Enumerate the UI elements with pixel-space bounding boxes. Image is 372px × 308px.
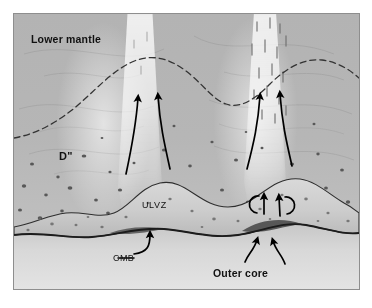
plume-arrow-right-inner <box>247 96 260 169</box>
circulation-loop-left <box>249 196 259 213</box>
label-outer-core: Outer core <box>213 267 268 279</box>
label-ulvz: ULVZ <box>142 200 167 210</box>
plume-arrow-left-inner <box>126 98 138 174</box>
plume-arrow-right-outer <box>280 94 292 166</box>
plume-arrow-left-outer <box>158 96 170 169</box>
circulation-loop-right <box>285 197 295 214</box>
core-inflow-arrow-left <box>245 240 257 262</box>
diagram-panel: Lower mantle D" ULVZ CMB Outer core <box>13 13 360 290</box>
core-inflow-arrow-right <box>273 241 285 264</box>
label-lower-mantle: Lower mantle <box>31 33 101 45</box>
cmb-pointer-arrow <box>134 234 150 254</box>
label-d-double-prime: D" <box>59 150 73 162</box>
figure-root: Lower mantle D" ULVZ CMB Outer core <box>0 0 372 308</box>
ulvz-arrow-right <box>279 197 280 216</box>
label-cmb: CMB <box>113 253 134 263</box>
